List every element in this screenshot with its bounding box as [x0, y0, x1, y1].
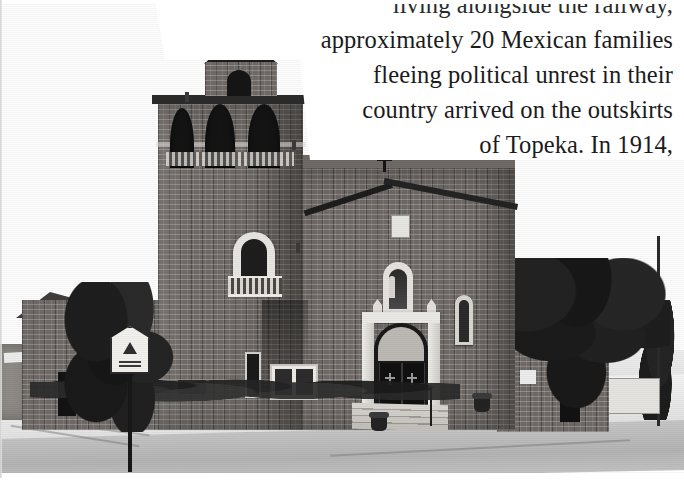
page-top-crop — [0, 0, 684, 4]
nave-window — [455, 295, 473, 345]
text-line-4: of Topeka. In 1914, — [203, 127, 673, 162]
nave-window-glass — [459, 300, 469, 342]
planter-rim — [472, 393, 492, 399]
sign-symbol-icon — [123, 342, 137, 354]
scan-edge-left — [0, 0, 2, 481]
text-line-1: approximately 20 Mexican families — [203, 22, 673, 57]
statue-niche — [383, 262, 413, 314]
sign-legend — [119, 360, 141, 367]
finial — [185, 92, 189, 102]
body-text: living alongside the railway, approximat… — [203, 0, 673, 162]
entrance-tympanum — [378, 327, 424, 361]
finial — [296, 243, 300, 253]
portal-lintel — [362, 312, 440, 323]
text-line-3: country arrived on the outskirts — [203, 92, 673, 127]
tower-balcony — [228, 276, 282, 297]
scanned-page: living alongside the railway, approximat… — [0, 0, 684, 481]
text-line-2: fleeing political unrest in their — [203, 57, 673, 92]
sign-post — [128, 360, 132, 472]
planter — [371, 416, 387, 431]
tree — [490, 258, 670, 408]
tower-window-glass — [241, 239, 267, 279]
entrance-steps — [352, 403, 448, 432]
planter — [474, 397, 490, 412]
planter-rim — [369, 412, 389, 418]
niche-statue — [389, 276, 395, 298]
gable-plaque — [391, 215, 410, 238]
